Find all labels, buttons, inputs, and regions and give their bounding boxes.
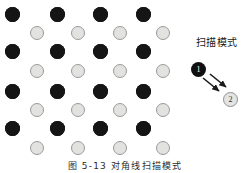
lattice-node-light [113,103,127,117]
node-lattice [0,0,180,160]
marker-node-1-label: 1 [197,66,201,74]
lattice-node-dark [93,44,108,59]
marker-node-1: 1 [191,62,206,77]
lattice-node-dark [136,121,151,136]
figure-caption: 图 5-13 对角线扫描模式 [0,161,250,172]
lattice-node-light [156,141,170,155]
scan-mode-label: 扫描模式 [196,37,237,49]
marker-node-2: 2 [223,92,238,107]
lattice-node-dark [5,44,20,59]
lattice-node-light [30,26,44,40]
lattice-node-light [156,64,170,78]
lattice-node-dark [5,7,20,22]
lattice-node-light [113,26,127,40]
lattice-node-dark [50,7,65,22]
lattice-node-dark [93,84,108,99]
lattice-node-light [156,26,170,40]
scan-direction-arrow [210,74,226,87]
lattice-node-dark [136,7,151,22]
lattice-node-dark [136,84,151,99]
lattice-node-light [71,103,85,117]
lattice-node-dark [50,121,65,136]
lattice-node-dark [93,7,108,22]
lattice-node-light [71,64,85,78]
lattice-node-light [156,103,170,117]
lattice-node-dark [5,84,20,99]
marker-node-2-label: 2 [229,96,233,104]
lattice-node-light [113,64,127,78]
lattice-node-dark [93,121,108,136]
lattice-node-light [30,64,44,78]
lattice-node-light [71,26,85,40]
lattice-node-light [113,141,127,155]
lattice-node-dark [50,84,65,99]
lattice-node-light [71,141,85,155]
lattice-node-dark [50,44,65,59]
lattice-node-dark [136,44,151,59]
lattice-node-dark [5,121,20,136]
scan-pattern-figure: 扫描模式 1 2 图 5-13 对角线扫描模式 [0,0,250,173]
lattice-node-light [30,103,44,117]
lattice-node-light [30,141,44,155]
scan-direction-arrow [203,78,219,91]
